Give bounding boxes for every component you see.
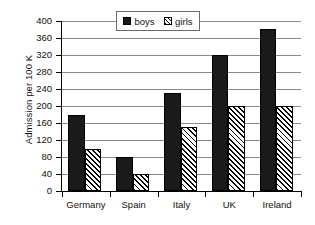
y-tick-label: 40: [18, 168, 52, 179]
bar-ireland-boys: [260, 29, 277, 191]
bar-germany-girls: [85, 149, 102, 192]
bar-ireland-girls: [276, 106, 293, 191]
bar-italy-girls: [181, 127, 198, 191]
y-tick-label: 400: [18, 15, 52, 26]
x-axis-label-ireland: Ireland: [253, 199, 301, 210]
x-tick-mark: [253, 192, 254, 197]
y-tick-label: 240: [18, 83, 52, 94]
legend-label-girls: girls: [175, 16, 192, 27]
plot-area: [62, 21, 301, 191]
solid-black-square-icon: [123, 17, 131, 25]
x-axis-label-spain: Spain: [110, 199, 158, 210]
bar-spain-boys: [116, 157, 133, 191]
y-tick-label: 200: [18, 100, 52, 111]
bar-uk-girls: [228, 106, 245, 191]
y-tick-label: 160: [18, 117, 52, 128]
y-tick-label: 80: [18, 151, 52, 162]
legend-entry-girls: girls: [164, 16, 193, 27]
legend-entry-boys: boys: [123, 16, 155, 27]
x-tick-mark: [110, 192, 111, 197]
y-tick-label: 120: [18, 134, 52, 145]
x-tick-mark: [62, 192, 63, 197]
y-tick-label: 0: [18, 185, 52, 196]
y-tick-label: 360: [18, 32, 52, 43]
x-tick-mark: [301, 192, 302, 197]
bar-uk-boys: [212, 55, 229, 191]
x-tick-mark: [205, 192, 206, 197]
hatched-square-icon: [164, 17, 172, 25]
bar-germany-boys: [68, 115, 85, 192]
x-axis-label-uk: UK: [205, 199, 253, 210]
legend-label-boys: boys: [135, 16, 155, 27]
chart-legend: boys girls: [116, 11, 200, 31]
y-tick-label: 320: [18, 49, 52, 60]
x-axis-line: [61, 191, 302, 192]
bar-italy-boys: [164, 93, 181, 191]
y-tick-label: 280: [18, 66, 52, 77]
x-axis-label-italy: Italy: [158, 199, 206, 210]
x-axis-label-germany: Germany: [62, 199, 110, 210]
x-tick-mark: [158, 192, 159, 197]
bar-spain-girls: [133, 174, 150, 191]
bar-chart: Admission per 100 K 04080120160200240280…: [0, 0, 315, 225]
